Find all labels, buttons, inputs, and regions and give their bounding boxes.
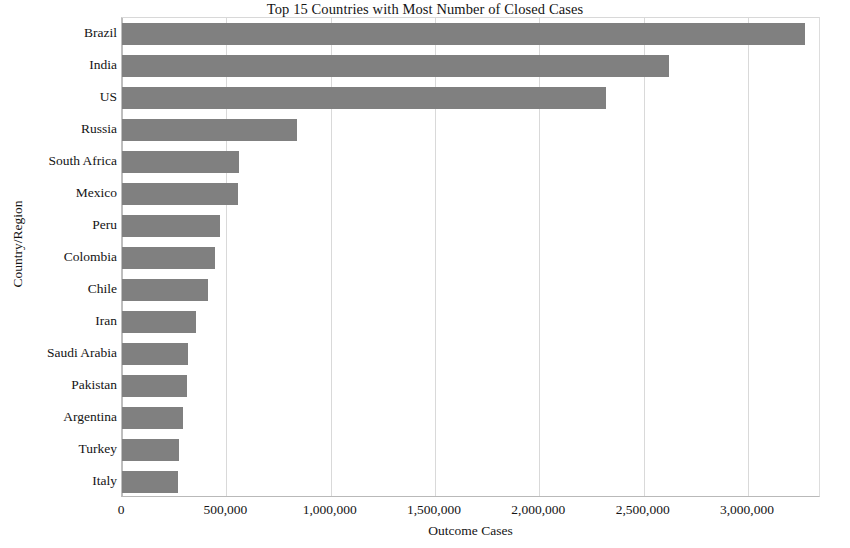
bar: [122, 247, 215, 269]
bar-row: [122, 375, 821, 397]
bar-row: [122, 23, 821, 45]
y-tick-label-italy: Italy: [5, 474, 117, 488]
bar: [122, 215, 220, 237]
bar-row: [122, 311, 821, 333]
bar: [122, 311, 196, 333]
x-tick-label: 0: [118, 502, 125, 518]
x-tick-label: 2,000,000: [511, 502, 565, 518]
y-axis-title: Country/Region: [10, 174, 26, 314]
y-tick-label-turkey: Turkey: [5, 442, 117, 456]
bar: [122, 151, 239, 173]
bar: [122, 55, 669, 77]
bar: [122, 279, 208, 301]
bar: [122, 439, 179, 461]
y-tick-label-south-africa: South Africa: [5, 154, 117, 168]
x-tick-label: 1,500,000: [407, 502, 461, 518]
chart-title: Top 15 Countries with Most Number of Clo…: [0, 1, 850, 18]
bar-row: [122, 215, 821, 237]
x-tick-label: 500,000: [203, 502, 247, 518]
bar: [122, 471, 178, 493]
y-tick-label-argentina: Argentina: [5, 410, 117, 424]
bar-chart: Top 15 Countries with Most Number of Clo…: [0, 0, 850, 548]
x-axis-tick-labels: 0500,0001,000,0001,500,0002,000,0002,500…: [0, 502, 850, 522]
bar-row: [122, 151, 821, 173]
bar: [122, 183, 238, 205]
x-tick-label: 1,000,000: [303, 502, 357, 518]
plot-area: [121, 17, 820, 497]
bar: [122, 87, 606, 109]
bar-row: [122, 407, 821, 429]
bar-row: [122, 55, 821, 77]
bar: [122, 119, 297, 141]
y-tick-label-india: India: [5, 58, 117, 72]
y-tick-label-pakistan: Pakistan: [5, 378, 117, 392]
bar: [122, 23, 805, 45]
y-tick-label-brazil: Brazil: [5, 26, 117, 40]
bar: [122, 375, 187, 397]
bar-row: [122, 119, 821, 141]
bar-row: [122, 87, 821, 109]
bar-row: [122, 247, 821, 269]
x-tick-label: 2,500,000: [616, 502, 670, 518]
x-tick-label: 3,000,000: [720, 502, 774, 518]
y-tick-label-iran: Iran: [5, 314, 117, 328]
bar-row: [122, 471, 821, 493]
bar: [122, 343, 188, 365]
bar-row: [122, 439, 821, 461]
y-tick-label-russia: Russia: [5, 122, 117, 136]
bar-row: [122, 279, 821, 301]
bar: [122, 407, 183, 429]
x-axis-title: Outcome Cases: [121, 523, 820, 539]
bar-row: [122, 183, 821, 205]
y-tick-label-us: US: [5, 90, 117, 104]
y-tick-label-saudi-arabia: Saudi Arabia: [5, 346, 117, 360]
bar-row: [122, 343, 821, 365]
